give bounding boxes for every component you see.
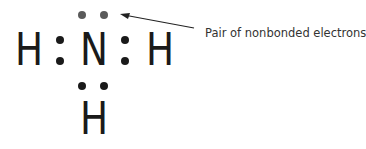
annotation-label: Pair of nonbonded electrons (205, 26, 366, 40)
